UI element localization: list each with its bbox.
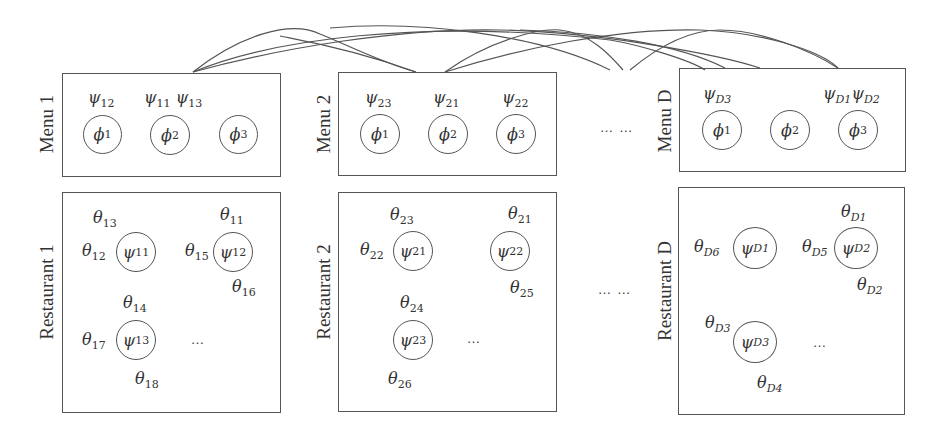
theta-label: θ14 [123, 293, 147, 315]
theta-label: θD4 [757, 373, 782, 395]
more-tables-ellipsis: … [467, 331, 481, 346]
table-node: ψ13 [116, 320, 156, 360]
theta-label: θ24 [400, 293, 424, 315]
psi-label: ψ12 [88, 88, 115, 110]
psi-label: ψ21 [433, 88, 460, 110]
link-curve [445, 30, 623, 72]
table-node: ψ21 [393, 231, 433, 271]
restaurant-label: Restaurant 2 [313, 182, 335, 402]
theta-label: θ16 [232, 277, 256, 299]
psi-label: ψD1ψD2 [823, 84, 880, 106]
restaurant-box-d [678, 187, 905, 415]
theta-label: θ22 [360, 240, 384, 262]
psi-label: ψ22 [502, 88, 529, 110]
theta-label: θ12 [82, 241, 106, 263]
theta-label: θ13 [93, 208, 117, 230]
theta-label: θ26 [388, 369, 412, 391]
table-node: ψ12 [213, 232, 253, 272]
theta-label: θ18 [135, 369, 159, 391]
theta-label: θD5 [802, 237, 827, 259]
table-node: ψ22 [490, 231, 530, 271]
dish-node: ϕ3 [838, 110, 878, 150]
theta-label: θ17 [82, 330, 106, 352]
theta-label: θD1 [841, 202, 866, 224]
table-node: ψD2 [834, 227, 878, 269]
psi-label: ψ23 [365, 88, 392, 110]
theta-label: θ15 [185, 241, 209, 263]
psi-label: ψ11 ψ13 [144, 88, 202, 110]
theta-label: θ11 [220, 205, 244, 227]
dish-node: ϕ1 [83, 115, 122, 154]
theta-label: θ25 [510, 278, 534, 300]
link-curve [280, 36, 416, 72]
link-curve [520, 30, 725, 68]
more-tables-ellipsis: … [813, 335, 827, 350]
restaurant-label: Restaurant 1 [36, 182, 58, 402]
dish-node: ϕ1 [360, 114, 400, 154]
dish-node: ϕ1 [702, 110, 742, 150]
theta-label: θ23 [390, 205, 414, 227]
table-node: ψ23 [393, 320, 433, 360]
link-curve [193, 29, 416, 72]
table-node: ψD1 [733, 227, 777, 269]
restaurant-label: Restaurant D [654, 181, 676, 401]
dish-node: ϕ2 [150, 115, 190, 155]
dish-node: ϕ3 [219, 115, 258, 154]
table-node: ψD3 [733, 321, 777, 363]
more-menus-ellipsis: … … [600, 120, 633, 135]
table-node: ψ11 [116, 232, 156, 272]
dish-node: ϕ2 [428, 114, 468, 154]
link-curve [193, 31, 705, 72]
theta-label: θD6 [694, 237, 719, 259]
theta-label: θ21 [508, 204, 532, 226]
dish-node: ϕ3 [496, 114, 536, 154]
dish-node: ϕ2 [770, 110, 810, 150]
more-restaurants-ellipsis: … … [598, 282, 631, 297]
theta-label: θD2 [857, 275, 882, 297]
psi-label: ψD3 [703, 84, 731, 106]
theta-label: θD3 [705, 313, 730, 335]
more-tables-ellipsis: … [191, 332, 205, 347]
link-curve [445, 30, 838, 72]
